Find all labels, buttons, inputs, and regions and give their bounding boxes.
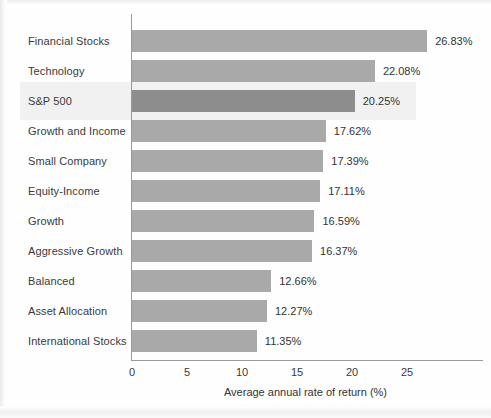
category-label: Growth and Income — [28, 125, 126, 137]
bar-value-label: 26.83% — [435, 35, 472, 47]
bar — [132, 30, 427, 52]
category-label: Equity-Income — [28, 185, 100, 197]
x-tick-label: 15 — [291, 366, 303, 378]
category-label: S&P 500 — [28, 95, 72, 107]
category-label: Growth — [28, 215, 64, 227]
bar-value-label: 22.08% — [383, 65, 420, 77]
bar — [132, 330, 257, 352]
category-label: Balanced — [28, 275, 75, 287]
bar — [132, 90, 355, 112]
bar — [132, 300, 267, 322]
bar-value-label: 17.39% — [331, 155, 368, 167]
category-label: Small Company — [28, 155, 107, 167]
bar-value-label: 12.27% — [275, 305, 312, 317]
x-tick-label: 20 — [346, 366, 358, 378]
bar — [132, 240, 312, 262]
x-tick-label: 5 — [184, 366, 190, 378]
category-label: Financial Stocks — [28, 35, 110, 47]
bar — [132, 270, 271, 292]
scan-artifact-left — [0, 0, 7, 418]
bar — [132, 150, 323, 172]
bar-chart: Financial StocksTechnologyS&P 500Growth … — [0, 0, 491, 418]
bar-value-label: 12.66% — [279, 275, 316, 287]
bar-value-label: 16.59% — [322, 215, 359, 227]
bar-value-label: 17.62% — [334, 125, 371, 137]
bar-value-label: 16.37% — [320, 245, 357, 257]
scan-artifact-top — [0, 0, 491, 5]
bar-value-label: 11.35% — [265, 335, 302, 347]
bar — [132, 120, 326, 142]
bar-value-label: 20.25% — [363, 95, 400, 107]
x-tick-label: 25 — [401, 366, 413, 378]
x-axis-line — [131, 360, 483, 361]
x-axis-title-text: Average annual rate of return (%) — [224, 386, 387, 398]
y-axis-line — [131, 14, 132, 361]
category-label: Aggressive Growth — [28, 245, 123, 257]
bar-value-label: 17.11% — [328, 185, 365, 197]
x-tick-label: 0 — [129, 366, 135, 378]
bar — [132, 60, 375, 82]
category-label: Technology — [28, 65, 85, 77]
category-label: International Stocks — [28, 335, 127, 347]
bar — [132, 180, 320, 202]
x-axis-title: Average annual rate of return (%) — [0, 386, 491, 398]
bar — [132, 210, 314, 232]
scan-artifact-bottom — [0, 406, 491, 418]
category-label: Asset Allocation — [28, 305, 107, 317]
x-tick-label: 10 — [236, 366, 248, 378]
